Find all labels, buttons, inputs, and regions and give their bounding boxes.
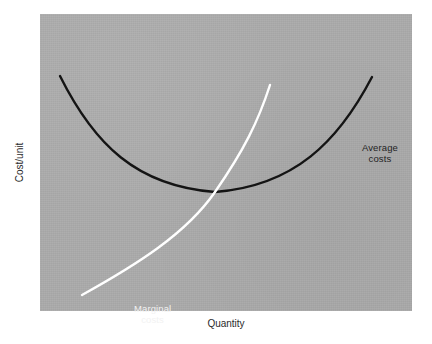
y-axis-title-text: Cost/unit [15,143,26,182]
average-cost-curve [60,76,372,192]
cost-curves-figure: Average costs Marginal costs Cost/unit Q… [0,0,432,344]
chart-panel: Average costs Marginal costs [40,14,412,311]
average-costs-label-line2: costs [362,153,398,164]
average-costs-label-line1: Average [362,142,398,153]
x-axis-title-text: Quantity [207,318,244,329]
x-axis-title: Quantity [40,318,412,329]
marginal-costs-label-line1: Marginal [134,303,171,314]
average-costs-label: Average costs [362,142,398,164]
marginal-cost-curve [82,85,270,295]
curves-plot [40,14,412,311]
y-axis-title: Cost/unit [0,14,40,311]
